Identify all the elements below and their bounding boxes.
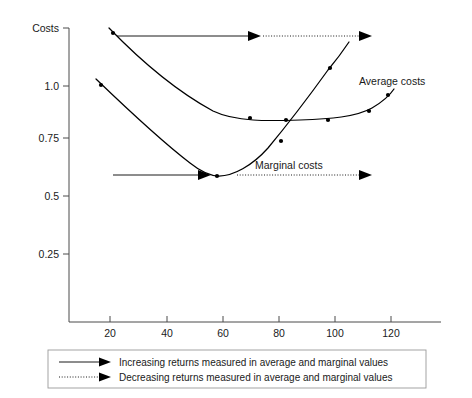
upper-arrow-solid-head — [248, 31, 261, 41]
lower-arrow-solid-head — [198, 170, 211, 180]
average-costs-marker — [367, 109, 371, 113]
y-axis-title: Costs — [32, 22, 59, 34]
marginal-costs-marker — [279, 139, 283, 143]
upper-returns-arrow — [117, 31, 372, 41]
marginal-costs-marker — [99, 83, 103, 87]
legend-item-label: Decreasing returns measured in average a… — [119, 372, 392, 383]
x-tick-label-60: 60 — [217, 327, 229, 339]
legend-item-increasing[interactable]: Increasing returns measured in average a… — [59, 357, 388, 368]
legend: Increasing returns measured in average a… — [48, 350, 426, 388]
marginal-costs-marker — [215, 174, 219, 178]
x-tick-label-100: 100 — [326, 327, 344, 339]
marginal-costs-marker — [328, 66, 332, 70]
x-tick-label-80: 80 — [273, 327, 285, 339]
average-costs-line — [109, 28, 394, 121]
average-costs-marker — [248, 116, 252, 120]
y-tick-label-1.0: 1.0 — [44, 80, 59, 92]
legend-solid-arrowhead-icon — [99, 358, 111, 367]
legend-item-label: Increasing returns measured in average a… — [119, 357, 388, 368]
chart-canvas: Costs 1.0 0.75 0.5 0.25 20 40 60 80 100 … — [0, 0, 472, 398]
y-tick-label-0.75: 0.75 — [39, 132, 60, 144]
cost-curves-figure: Costs 1.0 0.75 0.5 0.25 20 40 60 80 100 … — [0, 0, 472, 398]
average-costs-marker — [326, 118, 330, 122]
series-average-costs — [109, 28, 394, 122]
lower-returns-arrow — [113, 170, 372, 180]
lower-arrow-dotted-head — [359, 170, 372, 180]
series-marginal-costs — [96, 42, 349, 178]
average-costs-marker — [284, 118, 288, 122]
x-tick-label-120: 120 — [382, 327, 400, 339]
marginal-costs-label: Marginal costs — [255, 159, 323, 171]
legend-item-decreasing[interactable]: Decreasing returns measured in average a… — [59, 372, 392, 383]
average-costs-marker — [386, 93, 390, 97]
upper-arrow-dotted-head — [359, 31, 372, 41]
average-costs-marker — [111, 31, 115, 35]
y-tick-label-0.25: 0.25 — [39, 248, 60, 260]
x-tick-label-40: 40 — [161, 327, 173, 339]
average-costs-label: Average costs — [359, 75, 425, 87]
legend-dotted-arrowhead-icon — [99, 373, 111, 382]
x-tick-label-20: 20 — [104, 327, 116, 339]
marginal-costs-line — [96, 42, 349, 176]
y-tick-label-0.5: 0.5 — [44, 190, 59, 202]
